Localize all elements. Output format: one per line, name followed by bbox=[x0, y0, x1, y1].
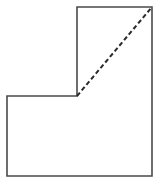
geometry-figure bbox=[0, 0, 162, 184]
